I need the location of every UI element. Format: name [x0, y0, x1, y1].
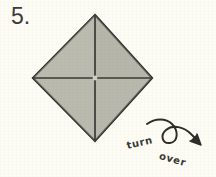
facet-top-left: [33, 15, 95, 78]
origami-diamond: [33, 15, 152, 141]
figure-svg: [0, 0, 216, 177]
turn-over-arrow: [147, 120, 201, 146]
center-point: [93, 76, 98, 81]
arrow-curve: [147, 120, 199, 144]
diagram-canvas: 5. turn over: [0, 0, 216, 177]
